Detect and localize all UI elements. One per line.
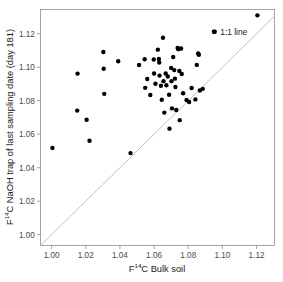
data-point	[157, 73, 161, 77]
data-point	[159, 84, 163, 88]
data-point	[145, 77, 149, 81]
data-point	[197, 52, 201, 56]
data-point	[148, 93, 152, 97]
data-point	[166, 74, 170, 78]
x-tick-label: 1.00	[44, 251, 60, 260]
y-axis-title-post: C NaOH trap of last sampling date (day 1…	[5, 29, 15, 212]
data-point	[101, 50, 105, 54]
data-point	[128, 151, 132, 155]
data-point	[152, 71, 156, 75]
y-tick-label: 1.10	[19, 63, 35, 72]
data-point	[137, 63, 141, 67]
data-point	[160, 98, 164, 102]
data-point	[50, 146, 54, 150]
data-point	[102, 92, 106, 96]
data-point	[173, 85, 177, 89]
data-point	[189, 86, 193, 90]
y-tick-label: 1.08	[19, 97, 35, 106]
y-axis-title: F14C NaOH trap of last sampling date (da…	[3, 29, 15, 225]
data-point	[153, 82, 157, 86]
y-axis-ticks: 1.001.021.041.061.081.101.12	[19, 30, 41, 240]
x-tick-label: 1.04	[112, 251, 128, 260]
data-point	[87, 139, 91, 143]
x-tick-label: 1.08	[180, 251, 196, 260]
data-point	[101, 67, 105, 71]
data-point	[142, 57, 146, 61]
data-point	[172, 68, 176, 72]
data-point	[156, 47, 160, 51]
data-point	[173, 76, 177, 80]
data-point	[174, 108, 178, 112]
data-point	[75, 71, 79, 75]
data-point	[143, 86, 147, 90]
data-point	[178, 118, 182, 122]
annotation-marker-dot	[213, 30, 217, 34]
scatter-plot-figure: 1.001.021.041.061.081.101.12 1.001.021.0…	[0, 0, 283, 282]
data-point	[161, 79, 165, 83]
data-point	[187, 100, 191, 104]
y-tick-label: 1.02	[19, 197, 35, 206]
y-tick-label: 1.00	[19, 231, 35, 240]
x-axis-title-post: C Bulk soil	[141, 264, 185, 274]
data-point	[180, 72, 184, 76]
data-point	[170, 106, 174, 110]
data-point	[201, 87, 205, 91]
data-point	[84, 118, 88, 122]
x-tick-label: 1.12	[249, 251, 265, 260]
data-point	[171, 55, 175, 59]
y-tick-label: 1.04	[19, 164, 35, 173]
data-point	[255, 13, 259, 17]
y-tick-label: 1.12	[19, 30, 35, 39]
data-point	[167, 126, 171, 130]
x-axis-title: F14C Bulk soil	[129, 262, 186, 274]
plot-canvas: 1.001.021.041.061.081.101.12 1.001.021.0…	[0, 0, 283, 282]
data-point	[157, 60, 161, 64]
data-point	[152, 57, 156, 61]
data-point	[179, 46, 183, 50]
data-point	[167, 92, 171, 96]
data-point	[162, 110, 166, 114]
data-point	[193, 97, 197, 101]
data-point	[164, 83, 168, 87]
plot-frame	[41, 10, 275, 246]
x-tick-label: 1.10	[214, 251, 230, 260]
x-axis-ticks: 1.001.021.041.061.081.101.12	[44, 246, 265, 260]
data-point	[161, 36, 165, 40]
x-tick-label: 1.02	[78, 251, 94, 260]
data-point	[75, 108, 79, 112]
y-tick-label: 1.06	[19, 130, 35, 139]
data-point	[116, 59, 120, 63]
one-to-one-annotation: 1:1 line	[213, 27, 248, 37]
data-point	[195, 63, 199, 67]
x-tick-label: 1.06	[146, 251, 162, 260]
data-point	[181, 91, 185, 95]
one-to-one-line-label: 1:1 line	[220, 27, 247, 37]
